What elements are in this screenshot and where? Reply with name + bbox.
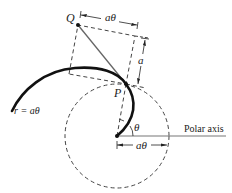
angle-theta-label: θ — [134, 121, 140, 133]
arrow-icon — [161, 144, 167, 147]
polar-axis-label: Polar axis — [184, 123, 224, 134]
spiral-curve — [12, 68, 133, 136]
side-dimension-label: a — [138, 54, 144, 66]
bottom-dimension-label: aθ — [136, 139, 148, 151]
point-p-label: P — [113, 86, 122, 100]
top-dim-tick-left — [80, 11, 81, 18]
origin-dot — [115, 134, 119, 138]
spiral-equation-label: r = aθ — [14, 105, 40, 116]
extension-line — [135, 36, 149, 38]
arrow-icon — [117, 144, 123, 147]
angle-arc — [130, 126, 133, 136]
point-q-label: Q — [66, 11, 75, 25]
point-p-dot — [124, 82, 128, 86]
point-q-dot — [76, 23, 80, 27]
top-dim-tick-right — [137, 22, 138, 29]
top-dimension-label: aθ — [105, 11, 117, 23]
spiral-tangent-diagram: aθ a Q P r = aθ θ aθ Polar axis — [0, 0, 232, 193]
